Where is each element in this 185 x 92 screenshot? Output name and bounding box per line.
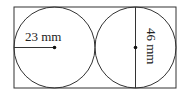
radius-label: 23 mm [25, 29, 61, 44]
diameter-label: 46 mm [144, 28, 159, 64]
left-center-dot [53, 46, 57, 50]
diagram-canvas: 23 mm 46 mm [0, 0, 185, 92]
right-center-dot [134, 46, 138, 50]
